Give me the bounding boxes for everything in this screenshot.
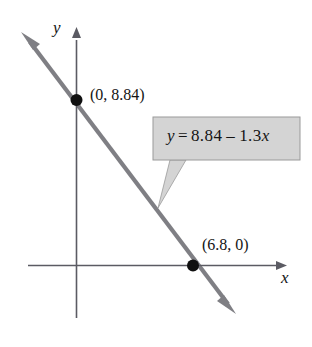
equation-intercept-value: 8.84 [191,126,222,145]
x-axis-label: x [281,268,289,288]
equation-label: y=8.84–1.3x [167,126,270,146]
equation-variable: x [262,126,270,145]
axes [28,27,287,318]
point-marker-y-intercept [71,94,83,106]
point-label-y-intercept: (0, 8.84) [90,86,145,104]
line-arrowhead-lower-right [217,295,236,314]
equation-slope-value: 1.3 [239,126,261,145]
graph-canvas [0,0,312,347]
point-marker-x-intercept [187,260,199,272]
y-axis-label: y [53,18,61,38]
y-axis-arrowhead [72,27,81,38]
equation-lhs: y [167,126,175,145]
equation-operator: – [226,126,235,145]
point-label-x-intercept: (6.8, 0) [202,236,249,254]
line-graph-figure: y x (0, 8.84) (6.8, 0) y=8.84–1.3x [0,0,312,347]
equation-relation: = [178,126,188,145]
line-arrowhead-upper-left [21,32,40,50]
graph-line [21,32,236,314]
callout-tail [158,160,186,208]
